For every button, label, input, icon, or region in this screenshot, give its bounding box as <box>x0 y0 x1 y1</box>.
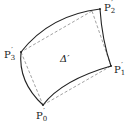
vertex-p0 <box>42 104 44 106</box>
vertex-p3 <box>20 51 22 53</box>
label-p3: P3′ <box>4 46 15 62</box>
vertex-p2 <box>99 8 101 10</box>
curve-p3-p0 <box>21 52 43 105</box>
curve-p2-p3 <box>21 9 100 52</box>
region-label: Δ′ <box>59 53 70 64</box>
label-p1: P1′ <box>114 61 125 77</box>
label-p0: P0′ <box>36 107 47 123</box>
chord-p2-p3 <box>21 11 92 52</box>
curve-p1-p2 <box>100 9 111 66</box>
vertex-p1 <box>110 65 112 67</box>
label-p2: P2′ <box>104 0 115 15</box>
chord-p0-p1 <box>43 66 111 105</box>
curvilinear-quadrilateral-diagram: P0′ P1′ P2′ P3′ Δ′ <box>0 0 133 134</box>
